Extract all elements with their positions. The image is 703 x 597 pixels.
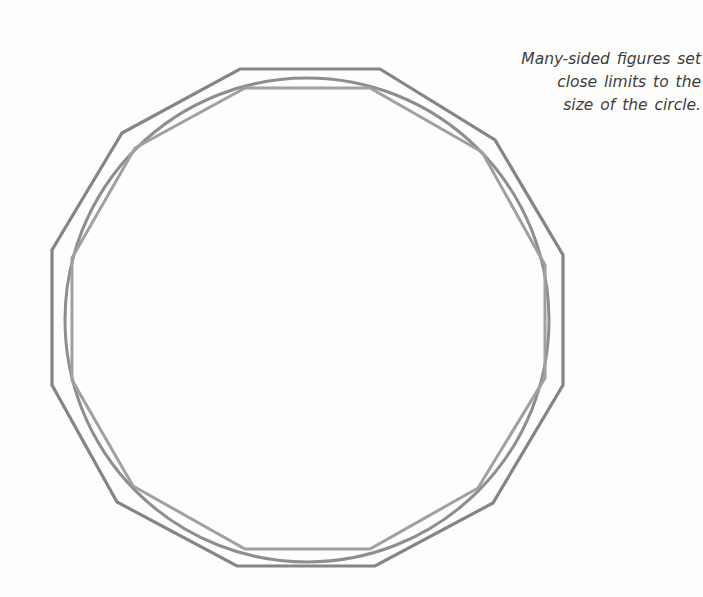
figure-canvas: Many-sided figures set close limits to t… [0, 0, 703, 597]
caption-line-3: size of the circle. [441, 94, 701, 117]
inscribed-polygon [72, 88, 545, 549]
caption: Many-sided figures set close limits to t… [441, 48, 701, 117]
caption-line-1: Many-sided figures set [441, 48, 701, 71]
caption-line-2: close limits to the [441, 71, 701, 94]
circumscribed-polygon [52, 69, 563, 566]
